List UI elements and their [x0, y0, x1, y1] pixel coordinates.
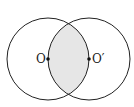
point-o	[46, 57, 50, 61]
point-o-prime	[87, 57, 91, 61]
label-o: O	[36, 52, 46, 66]
label-o-prime: O′	[92, 52, 105, 66]
two-circles-diagram: O O′	[0, 0, 134, 107]
